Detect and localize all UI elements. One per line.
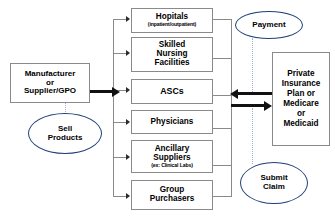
- node-ancillary-suppliers[interactable]: Ancillary Suppliers (ex: Clinical Labs): [131, 140, 213, 173]
- node-skilled-nursing-facilities[interactable]: Skilled Nursing Facilities: [131, 37, 213, 72]
- leader-line-payment: [252, 38, 253, 92]
- node-ascs[interactable]: ASCs: [131, 79, 213, 104]
- collection-bus-line: [231, 19, 232, 197]
- collect-line-group-purchasers: [213, 196, 232, 197]
- flow-diagram: Manufacturer or Supplier/GPO Hopitals (i…: [0, 0, 335, 218]
- callout-sell-products[interactable]: Sell Products: [28, 113, 102, 154]
- branch-arrow-ancillary: [126, 154, 130, 160]
- callout-payment[interactable]: Payment: [235, 11, 303, 39]
- payment-arrow-head: [230, 89, 238, 99]
- node-payer-line-2: Insurance: [282, 79, 321, 89]
- node-manufacturer[interactable]: Manufacturer or Supplier/GPO: [10, 63, 90, 103]
- node-payer-line-6: Medicaid: [283, 119, 318, 129]
- collect-line-physicians: [213, 128, 232, 129]
- node-physicians-title: Physicians: [151, 118, 194, 127]
- node-payer[interactable]: Private Insurance Plan or Medicare or Me…: [272, 52, 330, 146]
- callout-sell-products-line-2: Products: [48, 134, 83, 143]
- branch-line-ancillary: [113, 157, 127, 158]
- collect-line-skilled-nursing: [213, 58, 232, 59]
- node-payer-line-3: Plan or: [287, 89, 315, 99]
- collect-line-hospitals: [213, 19, 232, 20]
- node-manufacturer-line-3: Supplier/GPO: [24, 87, 76, 96]
- branch-arrow-hospitals: [126, 16, 130, 22]
- branch-line-group-purchasers: [113, 196, 127, 197]
- node-hospitals[interactable]: Hopitals (inpatient/outpatient): [131, 8, 213, 33]
- claim-arrow-shaft: [231, 104, 264, 107]
- sell-products-arrow-head: [112, 87, 120, 97]
- leader-line-submit-claim: [252, 108, 253, 164]
- node-group-purchasers-line-2: Purchasers: [150, 195, 195, 204]
- branch-arrow-ascs: [126, 87, 130, 93]
- branch-line-skilled-nursing: [113, 53, 127, 54]
- branch-arrow-skilled-nursing: [126, 50, 130, 56]
- callout-submit-claim-line-2: Claim: [263, 183, 285, 192]
- collect-line-ancillary: [213, 165, 232, 166]
- branch-arrow-group-purchasers: [126, 193, 130, 199]
- node-ascs-title: ASCs: [160, 87, 183, 97]
- node-payer-line-4: Medicare: [283, 99, 319, 109]
- node-skilled-nursing-line-3: Facilities: [154, 59, 189, 68]
- distribution-bus-line: [113, 19, 114, 197]
- claim-arrow-head: [264, 101, 272, 111]
- branch-line-hospitals: [113, 19, 127, 20]
- node-payer-line-1: Private: [287, 69, 314, 79]
- sell-products-arrow-shaft: [90, 90, 112, 93]
- branch-line-physicians: [113, 122, 127, 123]
- node-ancillary-subtitle: (ex: Clinical Labs): [151, 163, 193, 169]
- node-payer-line-5: or: [297, 109, 305, 119]
- payment-arrow-shaft: [238, 92, 272, 95]
- callout-payment-line-1: Payment: [252, 21, 285, 30]
- node-physicians[interactable]: Physicians: [131, 110, 213, 134]
- callout-submit-claim[interactable]: Submit Claim: [240, 162, 308, 204]
- branch-arrow-physicians: [126, 119, 130, 125]
- node-group-purchasers[interactable]: Group Purchasers: [131, 180, 213, 210]
- node-hospitals-subtitle: (inpatient/outpatient): [148, 22, 196, 28]
